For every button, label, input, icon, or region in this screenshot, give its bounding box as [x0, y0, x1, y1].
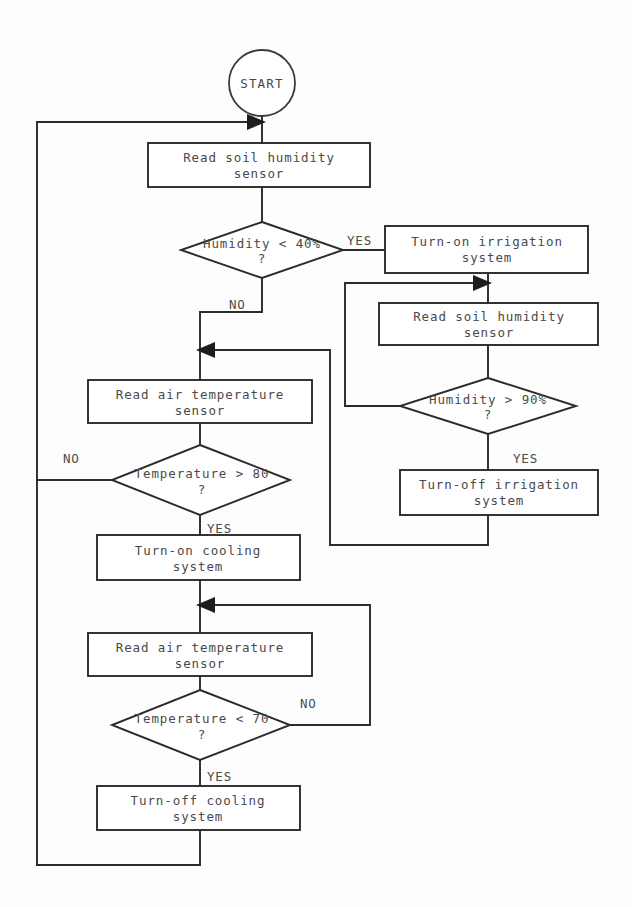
- temp-lt-70-line2: ?: [198, 727, 206, 742]
- node-cooling-on: Turn-on cooling system: [97, 535, 300, 580]
- label-temp80-yes: YES: [207, 521, 232, 536]
- label-humidity40-no: NO: [229, 297, 246, 312]
- read-soil-humidity-2-line2: sensor: [464, 325, 515, 340]
- label-humidity40-yes: YES: [347, 233, 372, 248]
- node-start: START: [229, 50, 295, 116]
- start-label: START: [240, 76, 284, 91]
- node-cooling-off: Turn-off cooling system: [97, 786, 300, 830]
- irrigation-on-line1: Turn-on irrigation: [411, 234, 563, 249]
- flowchart-canvas: START Read soil humidity sensor Humidity…: [0, 0, 632, 907]
- node-irrigation-off: Turn-off irrigation system: [400, 470, 598, 515]
- node-read-soil-humidity-2: Read soil humidity sensor: [379, 303, 598, 345]
- arrowhead-into-read-temp-1: [196, 342, 215, 358]
- read-air-temp-2-line2: sensor: [175, 656, 226, 671]
- cooling-on-line2: system: [173, 559, 224, 574]
- label-temp80-no: NO: [63, 451, 80, 466]
- node-read-air-temp-2: Read air temperature sensor: [88, 633, 312, 676]
- cooling-on-line1: Turn-on cooling: [135, 543, 261, 558]
- read-air-temp-2-line1: Read air temperature: [116, 640, 285, 655]
- node-temp-lt-70: Temperature < 70 ?: [112, 690, 290, 760]
- cooling-off-line2: system: [173, 809, 224, 824]
- irrigation-on-line2: system: [462, 250, 513, 265]
- cooling-off-line1: Turn-off cooling: [131, 793, 266, 808]
- temp-gt-80-line1: Temperature > 80: [135, 466, 270, 481]
- humidity-gt-90-line1: Humidity > 90%: [429, 392, 547, 407]
- read-soil-humidity-2-line1: Read soil humidity: [413, 309, 565, 324]
- edge-cooling-off-to-left-rail: [37, 830, 200, 865]
- temp-gt-80-line2: ?: [198, 482, 206, 497]
- read-soil-humidity-1-line2: sensor: [234, 166, 285, 181]
- label-temp70-no: NO: [300, 696, 317, 711]
- humidity-lt-40-line1: Humidity < 40%: [203, 236, 321, 251]
- node-irrigation-on: Turn-on irrigation system: [385, 226, 588, 273]
- read-soil-humidity-1-line1: Read soil humidity: [183, 150, 335, 165]
- edge-humidity40-no-to-read-temp-1: [200, 278, 262, 380]
- read-air-temp-1-line2: sensor: [175, 403, 226, 418]
- temp-lt-70-line1: Temperature < 70: [135, 711, 270, 726]
- node-humidity-lt-40: Humidity < 40% ?: [181, 222, 343, 278]
- arrowhead-humidity-loop: [473, 275, 492, 291]
- label-humidity90-yes: YES: [513, 451, 538, 466]
- humidity-gt-90-line2: ?: [484, 407, 492, 422]
- flowchart-svg: START Read soil humidity sensor Humidity…: [0, 0, 632, 907]
- read-air-temp-1-line1: Read air temperature: [116, 387, 285, 402]
- label-temp70-yes: YES: [207, 769, 232, 784]
- irrigation-off-line2: system: [474, 493, 525, 508]
- node-temp-gt-80: Temperature > 80 ?: [112, 445, 290, 515]
- node-humidity-gt-90: Humidity > 90% ?: [400, 378, 576, 434]
- node-read-soil-humidity-1: Read soil humidity sensor: [148, 143, 370, 187]
- arrowhead-into-read-temp-2: [196, 597, 215, 613]
- irrigation-off-line1: Turn-off irrigation: [419, 477, 579, 492]
- humidity-lt-40-line2: ?: [258, 251, 266, 266]
- node-read-air-temp-1: Read air temperature sensor: [88, 380, 312, 423]
